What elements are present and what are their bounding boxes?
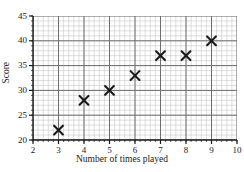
x-axis-title: Number of times played (0, 155, 244, 165)
axis-frame (0, 0, 244, 172)
scatter-chart: Score 202530354045 2345678910 Number of … (0, 0, 244, 172)
